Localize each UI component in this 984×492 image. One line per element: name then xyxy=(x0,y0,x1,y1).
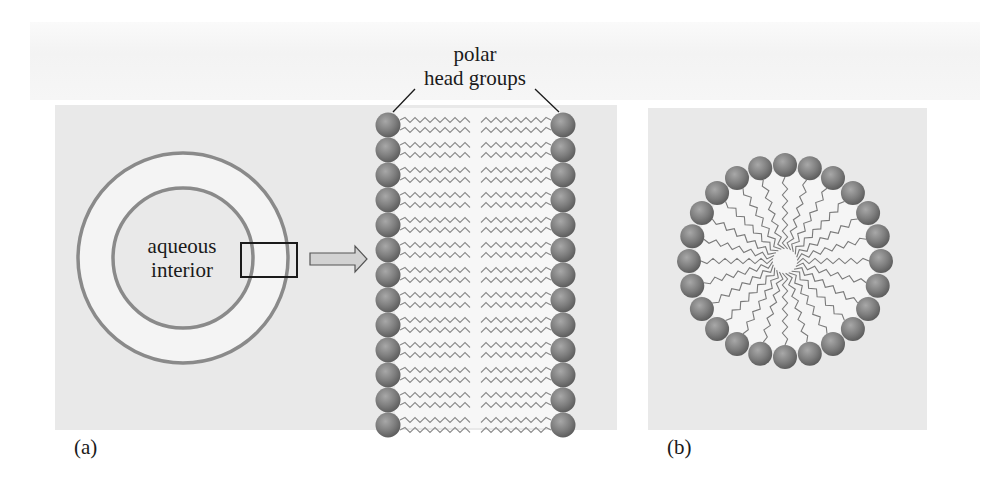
polar-head-group xyxy=(869,249,893,273)
polar-head-group xyxy=(376,388,401,413)
polar-head-group xyxy=(551,313,576,338)
polar-head-group xyxy=(680,274,704,298)
polar-head-group xyxy=(690,201,714,225)
callout-line1: polar xyxy=(395,42,555,66)
polar-head-group xyxy=(705,317,729,341)
polar-head-group xyxy=(690,297,714,321)
polar-head-group xyxy=(725,332,749,356)
polar-head-group xyxy=(551,238,576,263)
polar-head-group xyxy=(705,181,729,205)
polar-head-group xyxy=(841,317,865,341)
polar-head-group xyxy=(551,413,576,438)
polar-head-group xyxy=(376,263,401,288)
polar-head-group xyxy=(856,201,880,225)
polar-head-group xyxy=(376,413,401,438)
polar-head-group xyxy=(725,166,749,190)
interior-label-line1: aqueous xyxy=(122,234,242,258)
polar-head-group xyxy=(841,181,865,205)
aqueous-interior-label: aqueous interior xyxy=(122,234,242,282)
polar-head-group xyxy=(551,388,576,413)
polar-head-group xyxy=(376,113,401,138)
polar-head-group xyxy=(376,188,401,213)
polar-head-group xyxy=(551,213,576,238)
polar-head-group xyxy=(551,163,576,188)
interior-label-line2: interior xyxy=(122,258,242,282)
polar-head-group xyxy=(551,138,576,163)
polar-head-group xyxy=(677,249,701,273)
polar-head-group xyxy=(376,363,401,388)
polar-head-group xyxy=(551,338,576,363)
polar-head-group xyxy=(866,274,890,298)
polar-head-group xyxy=(866,224,890,248)
panel-a-label: (a) xyxy=(74,435,97,460)
polar-head-group xyxy=(376,313,401,338)
polar-head-group xyxy=(748,342,772,366)
polar-head-group xyxy=(551,263,576,288)
polar-head-group xyxy=(748,156,772,180)
callout-line2: head groups xyxy=(395,66,555,90)
polar-head-group xyxy=(821,332,845,356)
polar-head-group xyxy=(798,342,822,366)
polar-head-group xyxy=(376,163,401,188)
panel-b-label: (b) xyxy=(667,435,692,460)
polar-head-group xyxy=(376,213,401,238)
polar-head-group xyxy=(376,138,401,163)
polar-head-group xyxy=(773,345,797,369)
polar-head-group xyxy=(551,113,576,138)
polar-head-group xyxy=(856,297,880,321)
polar-head-group xyxy=(551,363,576,388)
polar-head-group xyxy=(798,156,822,180)
polar-head-groups-callout: polar head groups xyxy=(395,42,555,90)
polar-head-group xyxy=(773,153,797,177)
polar-head-group xyxy=(680,224,704,248)
polar-head-group xyxy=(376,238,401,263)
polar-head-group xyxy=(376,288,401,313)
polar-head-group xyxy=(551,188,576,213)
polar-head-group xyxy=(821,166,845,190)
polar-head-group xyxy=(551,288,576,313)
polar-head-group xyxy=(376,338,401,363)
